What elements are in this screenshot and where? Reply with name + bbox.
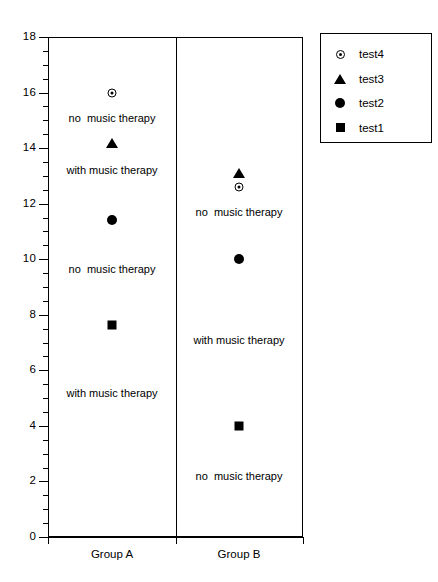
y-tick-minor [43, 287, 48, 288]
legend-item-test4: test4 [321, 42, 433, 66]
y-tick-major [39, 426, 48, 427]
y-tick-major [39, 370, 48, 371]
y-tick-minor [43, 190, 48, 191]
legend-item-test2: test2 [321, 91, 433, 115]
y-tick-major [39, 259, 48, 260]
square-filled-icon [336, 123, 345, 132]
circle-dot-icon [336, 50, 345, 59]
y-tick-minor [43, 79, 48, 80]
y-tick-minor [43, 356, 48, 357]
data-point-test4-group-a [108, 88, 117, 97]
legend: test4test3test2test1 [320, 33, 432, 143]
legend-label: test4 [359, 48, 384, 60]
y-tick-label: 4 [6, 420, 36, 432]
y-tick-minor [43, 468, 48, 469]
y-tick-minor [43, 329, 48, 330]
y-tick-minor [43, 454, 48, 455]
y-tick-minor [43, 65, 48, 66]
annotation-label: no music therapy [196, 206, 283, 218]
data-point-test2-group-b [234, 254, 244, 264]
y-tick-minor [43, 412, 48, 413]
annotation-label: with music therapy [193, 334, 284, 346]
y-tick-minor [43, 384, 48, 385]
circle-filled-icon [335, 98, 345, 108]
y-tick-label: 14 [6, 142, 36, 154]
y-tick-minor [43, 231, 48, 232]
annotation-label: no music therapy [196, 470, 283, 482]
legend-symbol [321, 67, 359, 91]
annotation-label: no music therapy [69, 263, 156, 275]
y-tick-major [39, 148, 48, 149]
y-tick-major [39, 204, 48, 205]
data-point-test2-group-a [107, 215, 117, 225]
triangle-up-icon [334, 74, 346, 84]
annotation-label: no music therapy [69, 112, 156, 124]
x-tick-label-group-a: Group A [52, 548, 172, 561]
data-point-test1-group-a [108, 320, 117, 329]
x-tick [48, 537, 49, 544]
y-tick-minor [43, 440, 48, 441]
y-tick-minor [43, 301, 48, 302]
legend-item-test1: test1 [321, 116, 433, 140]
y-tick-major [39, 37, 48, 38]
y-tick-minor [43, 273, 48, 274]
y-tick-minor [43, 106, 48, 107]
legend-symbol [321, 116, 359, 140]
y-tick-major [39, 93, 48, 94]
y-tick-minor [43, 398, 48, 399]
legend-label: test3 [359, 73, 384, 85]
panel-divider [176, 37, 177, 537]
y-tick-minor [43, 495, 48, 496]
x-tick [176, 537, 177, 544]
data-point-test3-group-a [106, 138, 118, 148]
annotation-label: with music therapy [66, 387, 157, 399]
y-tick-major [39, 537, 48, 538]
y-tick-label: 12 [6, 198, 36, 210]
y-tick-major [39, 315, 48, 316]
y-tick-minor [43, 134, 48, 135]
y-tick-minor [43, 162, 48, 163]
data-point-test1-group-b [235, 421, 244, 430]
x-tick [303, 537, 304, 544]
y-tick-minor [43, 509, 48, 510]
legend-label: test2 [359, 97, 384, 109]
data-point-test3-group-b [233, 168, 245, 178]
y-tick-minor [43, 120, 48, 121]
y-tick-minor [43, 218, 48, 219]
data-point-test4-group-b [235, 183, 244, 192]
y-tick-label: 18 [6, 31, 36, 43]
legend-label: test1 [359, 122, 384, 134]
y-tick-minor [43, 245, 48, 246]
y-tick-minor [43, 176, 48, 177]
y-tick-label: 16 [6, 87, 36, 99]
y-tick-label: 10 [6, 253, 36, 265]
scatter-chart: 024681012141618 Group AGroup B no music … [0, 0, 438, 582]
y-tick-minor [43, 51, 48, 52]
legend-symbol [321, 91, 359, 115]
legend-symbol [321, 42, 359, 66]
y-tick-label: 8 [6, 309, 36, 321]
y-tick-label: 0 [6, 531, 36, 543]
x-tick-label-group-b: Group B [179, 548, 299, 561]
annotation-label: with music therapy [66, 164, 157, 176]
y-tick-minor [43, 523, 48, 524]
legend-item-test3: test3 [321, 67, 433, 91]
y-tick-label: 2 [6, 475, 36, 487]
y-tick-minor [43, 343, 48, 344]
y-tick-major [39, 481, 48, 482]
y-tick-label: 6 [6, 364, 36, 376]
